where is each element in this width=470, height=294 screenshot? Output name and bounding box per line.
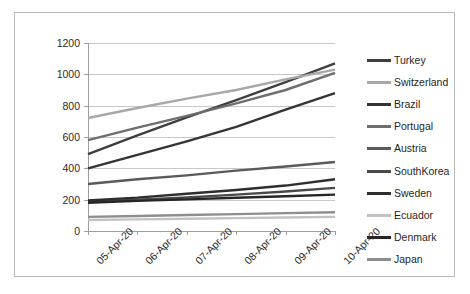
chart-frame: 120010008006004002000 05-Apr-2006-Apr-20… — [14, 12, 455, 277]
legend-swatch-icon — [367, 147, 391, 150]
legend-item-ecuador[interactable]: Ecuador — [367, 204, 467, 226]
legend-swatch-icon — [367, 236, 391, 239]
legend-swatch-icon — [367, 59, 391, 62]
legend-label: Switzerland — [394, 77, 448, 88]
x-tick-07-Apr-20 — [187, 231, 188, 235]
y-axis-label-1000: 1000 — [35, 69, 80, 79]
chart-container: 120010008006004002000 05-Apr-2006-Apr-20… — [0, 0, 470, 294]
legend-label: Portugal — [394, 121, 433, 132]
y-axis-label-200: 200 — [35, 195, 80, 205]
legend-item-brazil[interactable]: Brazil — [367, 93, 467, 115]
x-tick-10-Apr-20 — [335, 231, 336, 235]
legend-label: Japan — [394, 254, 423, 265]
legend-label: Denmark — [394, 232, 437, 243]
x-tick-05-Apr-20 — [88, 231, 89, 235]
legend-item-southkorea[interactable]: SouthKorea — [367, 160, 467, 182]
legend-label: SouthKorea — [394, 166, 449, 177]
legend-item-denmark[interactable]: Denmark — [367, 227, 467, 249]
legend-swatch-icon — [367, 214, 391, 217]
legend-swatch-icon — [367, 258, 391, 261]
legend-item-austria[interactable]: Austria — [367, 138, 467, 160]
y-axis-label-1200: 1200 — [35, 38, 80, 48]
y-axis-label-400: 400 — [35, 163, 80, 173]
legend-swatch-icon — [367, 192, 391, 195]
legend-label: Brazil — [394, 99, 420, 110]
legend-swatch-icon — [367, 81, 391, 84]
plot-area — [88, 43, 335, 231]
x-tick-09-Apr-20 — [286, 231, 287, 235]
legend-label: Ecuador — [394, 210, 433, 221]
series-lines — [88, 43, 335, 231]
legend-item-turkey[interactable]: Turkey — [367, 49, 467, 71]
legend-label: Austria — [394, 143, 427, 154]
legend-item-switzerland[interactable]: Switzerland — [367, 71, 467, 93]
legend-item-sweden[interactable]: Sweden — [367, 182, 467, 204]
legend-swatch-icon — [367, 103, 391, 106]
y-axis-label-0: 0 — [35, 226, 80, 236]
chart-legend: TurkeySwitzerlandBrazilPortugalAustriaSo… — [367, 49, 467, 271]
legend-swatch-icon — [367, 125, 391, 128]
legend-swatch-icon — [367, 170, 391, 173]
legend-item-portugal[interactable]: Portugal — [367, 116, 467, 138]
legend-label: Sweden — [394, 188, 432, 199]
legend-item-japan[interactable]: Japan — [367, 249, 467, 271]
x-tick-08-Apr-20 — [236, 231, 237, 235]
series-line-austria — [88, 162, 335, 184]
x-tick-06-Apr-20 — [137, 231, 138, 235]
legend-label: Turkey — [394, 55, 426, 66]
y-axis-label-800: 800 — [35, 101, 80, 111]
y-axis-label-600: 600 — [35, 132, 80, 142]
